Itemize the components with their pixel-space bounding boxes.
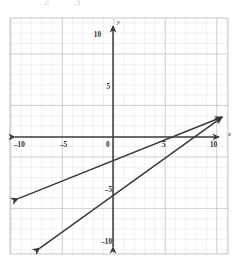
x-tick-label--5: –5 [59,141,68,149]
x-axis-label: x [227,130,232,138]
graph-page: 2 3 [0,0,242,261]
graph-svg: –10 –5 0 5 10 10 5 –5 –10 x y [0,0,242,261]
x-tick-label-5: 5 [162,141,166,149]
coordinate-plane: –10 –5 0 5 10 10 5 –5 –10 x y [0,0,242,261]
y-tick-label-5: 5 [106,83,110,91]
y-tick-label--5: –5 [104,186,113,194]
x-tick-label--10: –10 [13,141,25,149]
x-tick-label-0: 0 [106,141,110,149]
y-tick-label--10: –10 [100,238,112,246]
y-tick-label-10: 10 [94,31,102,39]
x-tick-label-10: 10 [210,141,218,149]
